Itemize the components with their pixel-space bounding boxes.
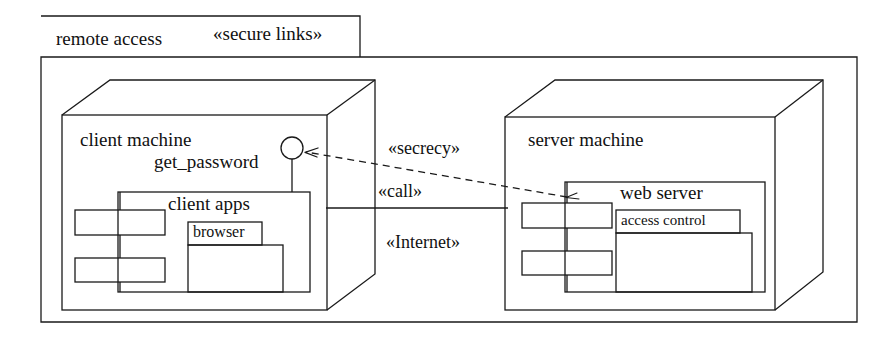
client-apps-tab-lower xyxy=(75,258,165,282)
secrecy-dependency-tail-tick xyxy=(566,193,579,199)
access-control-component-label: access control xyxy=(621,213,706,228)
web-server-tab-lower xyxy=(522,251,612,275)
server-machine-top-right-edge xyxy=(775,80,823,117)
client-apps-component-label: client apps xyxy=(168,194,250,213)
diagram-canvas xyxy=(0,0,884,348)
client-machine-node-label: client machine xyxy=(80,130,191,149)
secrecy-dependency-line xyxy=(306,152,567,197)
web-server-component-label: web server xyxy=(620,183,703,202)
uml-deployment-diagram: remote access «secure links» client mach… xyxy=(0,0,884,348)
web-server-tab-upper xyxy=(522,203,612,228)
package-stereotype-label: «secure links» xyxy=(213,24,322,43)
get-password-interface-label: get_password xyxy=(154,152,258,171)
access-control-component-body xyxy=(616,233,752,292)
client-apps-tab-upper xyxy=(75,210,165,235)
secrecy-dependency-arrowhead xyxy=(305,148,318,157)
secrecy-stereotype-label: «secrecy» xyxy=(388,139,460,157)
client-machine-top-right-edge xyxy=(327,80,375,115)
package-name-label: remote access xyxy=(56,29,162,48)
lollipop-interface-icon xyxy=(281,137,303,159)
browser-component-label: browser xyxy=(193,224,245,240)
browser-component-body xyxy=(188,245,283,292)
server-machine-node-label: server machine xyxy=(528,130,644,149)
internet-stereotype-label: «Internet» xyxy=(386,233,460,251)
call-stereotype-label: «call» xyxy=(378,182,422,200)
